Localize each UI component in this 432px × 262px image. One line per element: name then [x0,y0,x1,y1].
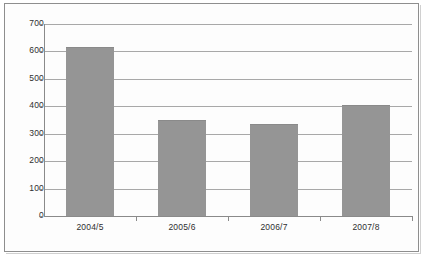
x-axis-tick-1 [136,217,137,221]
x-axis-tick-2 [228,217,229,221]
x-axis-label-2004-5: 2004/5 [44,222,136,232]
x-axis-tick-group: 2004/52005/62006/72007/8 [0,0,432,262]
bar-chart: 7006005004003002001000 2004/52005/62006/… [0,0,432,262]
x-axis-label-2007-8: 2007/8 [320,222,412,232]
x-axis-tick-3 [320,217,321,221]
x-axis-label-2005-6: 2005/6 [136,222,228,232]
x-axis-label-2006-7: 2006/7 [228,222,320,232]
chart-screenshot: 7006005004003002001000 2004/52005/62006/… [0,0,432,262]
x-axis-tick-end [412,217,413,221]
